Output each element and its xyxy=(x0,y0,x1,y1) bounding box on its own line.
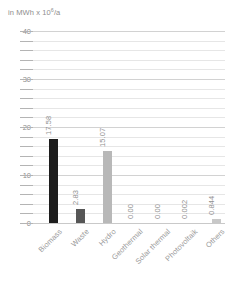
bar-value-label: 17.58 xyxy=(44,115,53,134)
gridline-minor xyxy=(33,60,225,61)
y-axis-tick-mark xyxy=(20,137,33,138)
bar[interactable]: 17.58 xyxy=(49,139,58,223)
y-axis-tick-mark xyxy=(20,146,33,147)
y-axis-tick-mark xyxy=(20,213,33,214)
gridline-major xyxy=(33,79,225,80)
y-axis-tick-mark xyxy=(20,89,33,90)
y-axis-tick-mark xyxy=(20,194,33,195)
gridline-minor xyxy=(33,41,225,42)
gridline-minor xyxy=(33,117,225,118)
gridline-major xyxy=(33,175,225,176)
y-axis-tick-mark xyxy=(20,223,33,224)
x-axis-category-label: Biomass xyxy=(36,227,63,254)
y-axis-unit-suffix: /a xyxy=(54,8,60,17)
gridline-minor xyxy=(33,194,225,195)
bar-value-label: 0.002 xyxy=(180,200,189,219)
bar-value-label: 15.07 xyxy=(98,127,107,146)
y-axis-tick-mark xyxy=(20,60,33,61)
gridline-minor xyxy=(33,156,225,157)
y-axis-tick-mark xyxy=(20,41,33,42)
gridline-minor xyxy=(33,50,225,51)
x-axis-line xyxy=(22,223,225,224)
gridline-minor xyxy=(33,98,225,99)
x-axis-category-label: Others xyxy=(204,227,227,250)
bar-chart: in MWh x 106/a 17.582.8315.070.000.000.0… xyxy=(0,0,231,289)
y-axis-tick-mark xyxy=(20,50,33,51)
gridline-minor xyxy=(33,165,225,166)
gridline-minor xyxy=(33,137,225,138)
y-axis-tick-mark xyxy=(20,156,33,157)
bar[interactable]: 2.83 xyxy=(76,209,85,223)
gridline-minor xyxy=(33,69,225,70)
gridline-minor xyxy=(33,108,225,109)
gridline-major xyxy=(33,127,225,128)
bar-value-label: 2.83 xyxy=(71,190,80,205)
bar-value-label: 0.00 xyxy=(126,204,135,219)
y-axis-unit-prefix: in MWh x 10 xyxy=(8,8,51,17)
bar-value-label: 0.00 xyxy=(153,204,162,219)
x-axis-category-label: Hydro xyxy=(97,227,118,248)
y-axis-tick-mark xyxy=(20,117,33,118)
bar[interactable]: 15.07 xyxy=(103,151,112,223)
gridline-major xyxy=(33,31,225,32)
x-axis-category-label: Waste xyxy=(69,227,91,249)
y-axis-unit-label: in MWh x 106/a xyxy=(8,8,60,17)
y-axis-tick-mark xyxy=(20,98,33,99)
gridline-minor xyxy=(33,146,225,147)
gridline-minor xyxy=(33,185,225,186)
y-axis-tick-mark xyxy=(20,69,33,70)
y-axis-tick-mark xyxy=(20,185,33,186)
y-axis-tick-mark xyxy=(20,127,33,128)
y-axis-tick-mark xyxy=(20,165,33,166)
y-axis-tick-mark xyxy=(20,31,33,32)
y-axis-tick-mark xyxy=(20,204,33,205)
plot-area: 17.582.8315.070.000.000.0020.844 xyxy=(33,31,225,223)
gridline-minor xyxy=(33,89,225,90)
y-axis-tick-mark xyxy=(20,79,33,80)
y-axis-tick-mark xyxy=(20,175,33,176)
y-axis-tick-mark xyxy=(20,108,33,109)
bar-value-label: 0.844 xyxy=(207,196,216,215)
